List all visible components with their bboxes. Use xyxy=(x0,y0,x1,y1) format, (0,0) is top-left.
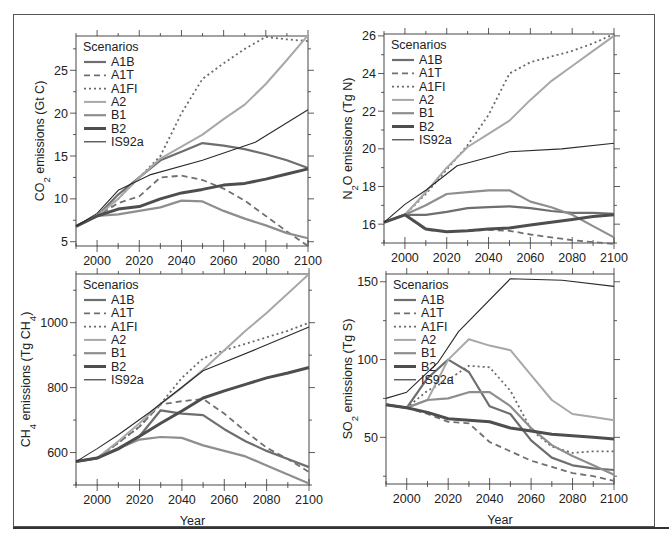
x-tick-label: 2060 xyxy=(210,493,238,507)
series-line-b1 xyxy=(76,437,309,483)
y-tick-label: 22 xyxy=(362,105,376,119)
ch4-emissions-panel: 2000202020402060208021006008001000CH4 em… xyxy=(19,268,323,528)
y-tick-label: 10 xyxy=(54,192,68,206)
x-tick-label: 2000 xyxy=(83,493,111,507)
legend-item-a2: A2 xyxy=(111,95,126,109)
legend-item-a1b: A1B xyxy=(111,293,135,307)
x-tick-label: 2100 xyxy=(600,492,628,506)
x-tick-label: 2060 xyxy=(516,251,544,265)
series-line-is92a xyxy=(384,143,614,222)
y-tick-label: 26 xyxy=(362,29,376,43)
x-tick-label: 2080 xyxy=(253,493,281,507)
legend-item-a1t: A1T xyxy=(111,306,134,320)
x-tick-label: 2000 xyxy=(391,251,419,265)
legend-item-a2: A2 xyxy=(419,93,434,107)
legend-item-b1: B1 xyxy=(111,108,126,122)
y-tick-label: 5 xyxy=(61,235,68,249)
series-line-b1 xyxy=(386,392,614,475)
x-tick-label: 2100 xyxy=(295,493,323,507)
co2-emissions-panel: 200020202040206020802100510152025CO2 emi… xyxy=(33,30,322,268)
x-axis-label: Year xyxy=(180,514,205,528)
y-tick-label: 800 xyxy=(47,381,68,395)
so2-emissions-panel: 20002020204020602080210050100150SO2 emis… xyxy=(341,268,628,527)
legend-item-a1t: A1T xyxy=(419,66,442,80)
y-tick-label: 25 xyxy=(54,64,68,78)
series-line-a1t xyxy=(386,405,614,481)
legend-item-b2: B2 xyxy=(111,122,126,136)
legend-item-b2: B2 xyxy=(111,360,126,374)
legend-item-a1fi: A1FI xyxy=(111,82,137,96)
y-tick-label: 15 xyxy=(54,150,68,164)
x-tick-label: 2040 xyxy=(475,251,503,265)
x-tick-label: 2080 xyxy=(558,251,586,265)
y-tick-label: 1000 xyxy=(40,316,68,330)
series-line-b1 xyxy=(76,201,308,239)
legend-item-is92a: IS92a xyxy=(111,373,144,387)
legend-title: Scenarios xyxy=(393,278,449,292)
x-tick-label: 2080 xyxy=(559,492,587,506)
legend-item-a1t: A1T xyxy=(111,68,134,82)
y-axis-label: SO2 emissions (Tg S) xyxy=(341,319,360,440)
x-tick-label: 2020 xyxy=(434,492,462,506)
legend-title: Scenarios xyxy=(83,40,139,54)
y-tick-label: 20 xyxy=(54,107,68,121)
x-tick-label: 2000 xyxy=(83,254,111,268)
series-line-a1b xyxy=(76,410,309,467)
y-tick-label: 24 xyxy=(362,67,376,81)
emissions-figure: 200020202040206020802100510152025CO2 emi… xyxy=(0,0,669,537)
legend-item-is92a: IS92a xyxy=(421,373,454,387)
legend-item-a1b: A1B xyxy=(111,55,135,69)
n2o-emissions-panel: 200020202040206020802100161820222426N2O … xyxy=(341,28,628,265)
y-tick-label: 100 xyxy=(357,353,378,367)
x-axis-label: Year xyxy=(487,513,512,527)
legend-item-b2: B2 xyxy=(421,360,436,374)
legend-title: Scenarios xyxy=(83,278,139,292)
y-tick-label: 150 xyxy=(357,275,378,289)
legend-item-b1: B1 xyxy=(421,346,436,360)
legend-title: Scenarios xyxy=(391,38,447,52)
y-axis-label: CH4 emissions (Tg CH4) xyxy=(19,312,38,448)
legend-item-a1b: A1B xyxy=(419,53,443,67)
x-tick-label: 2100 xyxy=(600,251,628,265)
y-tick-label: 16 xyxy=(362,218,376,232)
x-tick-label: 2040 xyxy=(476,492,504,506)
series-line-b2 xyxy=(384,215,614,232)
x-tick-label: 2040 xyxy=(168,254,196,268)
x-tick-label: 2040 xyxy=(168,493,196,507)
x-tick-label: 2080 xyxy=(252,254,280,268)
legend-item-a1b: A1B xyxy=(421,293,445,307)
y-tick-label: 50 xyxy=(364,431,378,445)
x-tick-label: 2100 xyxy=(294,254,322,268)
x-tick-label: 2020 xyxy=(125,254,153,268)
y-tick-label: 600 xyxy=(47,446,68,460)
x-tick-label: 2020 xyxy=(433,251,461,265)
y-axis-label: N2O emissions (Tg N) xyxy=(341,78,360,200)
y-axis-label: CO2 emissions (Gt C) xyxy=(33,81,52,202)
x-tick-label: 2000 xyxy=(393,492,421,506)
legend-item-a1fi: A1FI xyxy=(419,80,445,94)
x-tick-label: 2060 xyxy=(517,492,545,506)
x-tick-label: 2060 xyxy=(210,254,238,268)
legend-item-b2: B2 xyxy=(419,120,434,134)
x-tick-label: 2020 xyxy=(126,493,154,507)
legend-item-a2: A2 xyxy=(421,333,436,347)
legend-item-a1fi: A1FI xyxy=(421,320,447,334)
legend-item-b1: B1 xyxy=(111,346,126,360)
legend-item-is92a: IS92a xyxy=(419,133,452,147)
legend-item-a1fi: A1FI xyxy=(111,320,137,334)
legend-item-a1t: A1T xyxy=(421,306,444,320)
series-line-a1t xyxy=(76,399,309,472)
legend-item-b1: B1 xyxy=(419,106,434,120)
y-tick-label: 20 xyxy=(362,142,376,156)
legend-item-a2: A2 xyxy=(111,333,126,347)
legend-item-is92a: IS92a xyxy=(111,135,144,149)
y-tick-label: 18 xyxy=(362,180,376,194)
